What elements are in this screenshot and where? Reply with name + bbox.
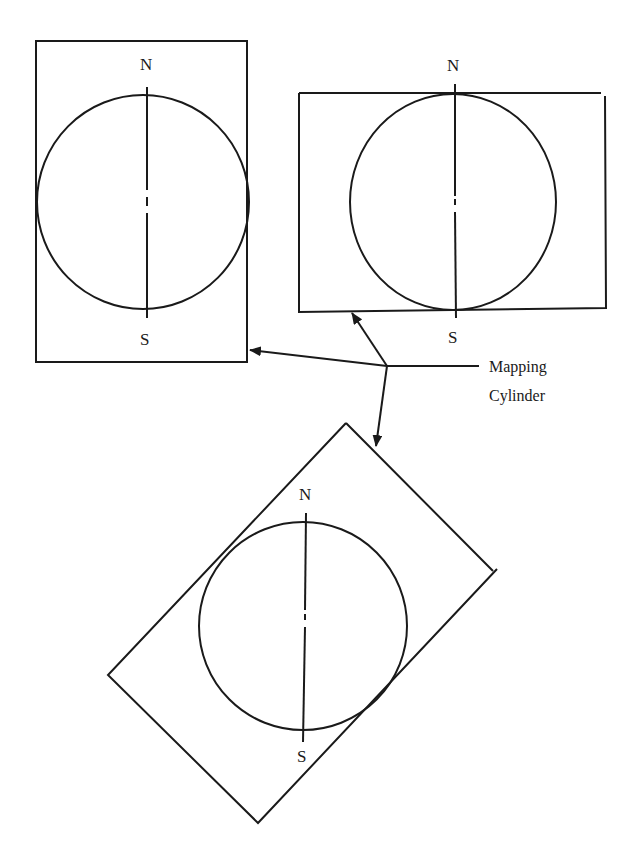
- callout-label-line1: Mapping: [489, 358, 547, 376]
- north-label: N: [447, 56, 459, 75]
- panel-normal-wide: [299, 84, 606, 318]
- cylinder-outline: [299, 93, 606, 312]
- arrow-to-wide-panel: [352, 313, 387, 366]
- callout-arrows: [250, 313, 479, 446]
- arrow-to-oblique-panel: [376, 366, 387, 446]
- callout-label-line2: Cylinder: [489, 387, 546, 405]
- globe-circle: [37, 95, 249, 309]
- north-label: N: [140, 55, 152, 74]
- south-label: S: [140, 330, 149, 349]
- cylinder-outline: [36, 41, 247, 362]
- arrow-to-tall-panel: [250, 350, 387, 366]
- globe-circle: [350, 94, 556, 310]
- south-label: S: [448, 328, 457, 347]
- south-label: S: [297, 747, 306, 766]
- panel-normal-tall: [36, 41, 249, 362]
- mapping-cylinder-diagram: N S N S N S Mapping Cylinder: [0, 0, 643, 866]
- north-label: N: [299, 485, 311, 504]
- polar-axis: [305, 513, 306, 610]
